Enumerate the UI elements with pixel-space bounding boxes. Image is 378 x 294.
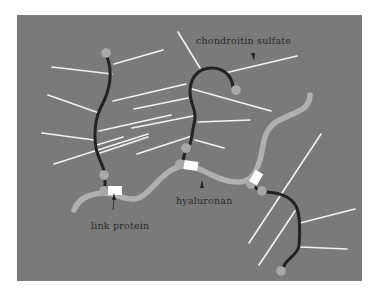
cs-chain	[100, 137, 148, 153]
cs-chain	[114, 50, 163, 64]
globular-domain	[231, 85, 241, 95]
globular-domain	[257, 186, 267, 196]
link-proteins	[108, 160, 263, 195]
cs-chain	[42, 133, 94, 140]
diagram-graphics	[0, 0, 378, 294]
arrow-chondroitin-sulfate-icon	[251, 53, 255, 61]
cs-chain	[113, 84, 186, 101]
proteoglycan-diagram: chondroitin sulfate hyaluronan link prot…	[0, 0, 378, 294]
label-arrows	[112, 53, 255, 210]
globular-domain	[99, 186, 109, 196]
cs-chain	[195, 140, 224, 148]
label-chondroitin-sulfate: chondroitin sulfate	[196, 35, 291, 46]
cs-chain	[225, 56, 297, 73]
link-protein-block	[183, 160, 198, 171]
cs-chain	[300, 247, 347, 249]
globular-domain	[181, 143, 191, 153]
label-link-protein: link protein	[91, 220, 149, 231]
globular-domain	[99, 170, 109, 180]
globular-domain	[175, 159, 185, 169]
cs-chain	[300, 209, 355, 223]
label-hyaluronan: hyaluronan	[176, 195, 232, 206]
core-protein-middle	[190, 68, 233, 144]
globular-domain	[276, 266, 286, 276]
link-protein-block	[108, 186, 122, 195]
cs-chain	[48, 95, 99, 113]
cs-chain	[198, 120, 250, 122]
globular-domain	[101, 48, 111, 58]
core-protein-middle-stem	[183, 153, 185, 160]
cs-chain	[192, 89, 271, 111]
arrow-hyaluronan-icon	[200, 180, 204, 188]
arrow-link-protein-shaft	[113, 199, 114, 210]
cs-chain	[134, 98, 188, 109]
cs-chain	[52, 67, 112, 74]
chondroitin-sulfate-chains	[42, 32, 355, 265]
